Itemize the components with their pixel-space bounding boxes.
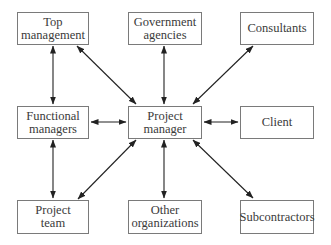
node-client: Client xyxy=(240,106,314,139)
node-top-management: Topmanagement xyxy=(17,12,89,45)
node-government-agencies: Governmentagencies xyxy=(128,12,202,45)
arrow-top-management-project-manager xyxy=(77,46,136,104)
node-label-line: Consultants xyxy=(247,22,306,35)
arrow-project-manager-subcontractors xyxy=(193,140,253,198)
node-label-line: team xyxy=(35,217,70,230)
node-label-line: organizations xyxy=(131,217,198,230)
node-label-line: management xyxy=(21,29,85,42)
node-other-organizations: Otherorganizations xyxy=(128,200,202,234)
node-label-line: Top xyxy=(21,16,85,29)
node-label-line: Functional xyxy=(26,110,79,123)
node-subcontractors: Subcontractors xyxy=(240,200,314,234)
arrow-consultants-project-manager xyxy=(193,46,253,104)
node-label-line: Subcontractors xyxy=(240,211,315,224)
node-project-manager: Projectmanager xyxy=(128,106,202,139)
node-project-team: Projectteam xyxy=(17,200,89,234)
node-consultants: Consultants xyxy=(240,12,314,45)
node-functional-managers: Functionalmanagers xyxy=(17,106,89,139)
node-label-line: Client xyxy=(262,116,293,129)
node-label-line: managers xyxy=(26,123,79,136)
node-label-line: Project xyxy=(143,110,186,123)
node-label-line: agencies xyxy=(134,29,196,42)
node-label-line: manager xyxy=(143,123,186,136)
node-label-line: Government xyxy=(134,16,196,29)
arrow-project-manager-project-team xyxy=(78,140,136,199)
